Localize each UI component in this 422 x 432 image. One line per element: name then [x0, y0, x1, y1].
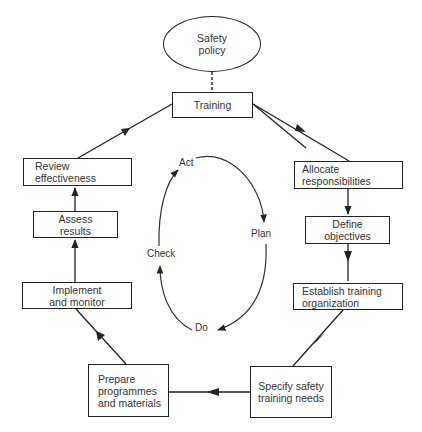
cycle-label-plan: Plan: [250, 228, 272, 239]
allocate-responsibilities-node: Allocate responsibilities: [294, 161, 403, 189]
node-label: Specify safety: [258, 380, 323, 392]
node-label: Implement: [52, 284, 101, 296]
cycle-arc-plan-do: [218, 244, 266, 330]
cycle-label-check: Check: [146, 248, 176, 259]
arrowhead-icon: [207, 388, 219, 396]
cycle-arc-check-act: [159, 170, 178, 246]
cycle-arc-do-check: [160, 266, 192, 330]
node-label: objectives: [324, 230, 371, 242]
assess-results-node: Assess results: [33, 211, 118, 238]
implement-and-monitor-node: Implement and monitor: [22, 282, 132, 309]
node-label: policy: [199, 44, 226, 56]
node-label: Review: [35, 160, 69, 172]
node-label: Establish training: [302, 285, 382, 297]
establish-training-organization-node: Establish training organization: [293, 283, 403, 310]
review-effectiveness-node: Review effectiveness: [23, 158, 132, 186]
arrow-establish-specify: [293, 310, 343, 366]
node-label: and materials: [98, 397, 161, 409]
define-objectives-node: Define objectives: [305, 216, 390, 244]
prepare-programmes-node: Prepare programmes and materials: [88, 364, 169, 417]
node-label: Safety: [197, 32, 227, 44]
node-label: and monitor: [49, 296, 104, 308]
specify-training-needs-node: Specify safety training needs: [250, 366, 332, 418]
node-label: Define: [332, 218, 362, 230]
node-label: Prepare: [98, 373, 135, 385]
safety-policy-node: Safety policy: [163, 16, 261, 72]
cycle-label-do: Do: [194, 322, 209, 333]
node-label: results: [60, 225, 91, 237]
node-label: programmes: [98, 385, 157, 397]
node-label: effectiveness: [35, 172, 96, 184]
node-label: organization: [302, 297, 359, 309]
node-label: Allocate: [302, 163, 339, 175]
arrowhead-icon: [344, 251, 352, 262]
node-label: Assess: [59, 213, 93, 225]
node-label: responsibilities: [302, 175, 371, 187]
training-node: Training: [172, 92, 253, 118]
cycle-arc-act-plan: [196, 156, 264, 222]
arrowhead-icon: [295, 124, 306, 132]
node-label: Training: [194, 99, 232, 111]
arrowhead-icon: [314, 333, 325, 344]
cycle-label-act: Act: [178, 157, 194, 168]
node-label: training needs: [258, 392, 324, 404]
